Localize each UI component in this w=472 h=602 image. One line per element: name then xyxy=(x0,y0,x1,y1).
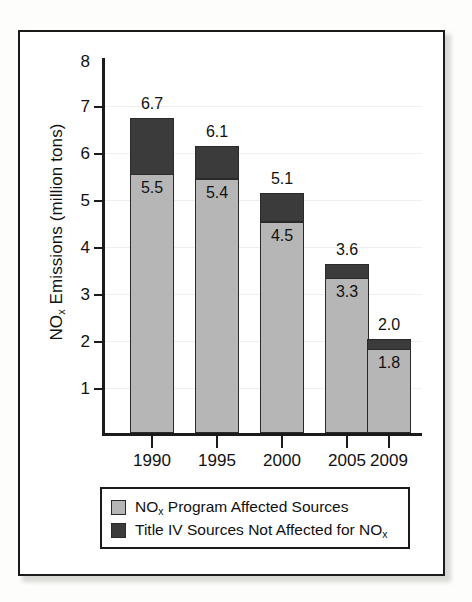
legend-label-title-iv-prefix: Title IV Sources Not Affected for NO xyxy=(135,521,382,538)
bar-segment-program-1990[interactable] xyxy=(130,174,174,433)
y-tick-label-8: 8 xyxy=(64,53,90,70)
y-tick-mark-7 xyxy=(94,106,103,108)
y-tick-mark-1 xyxy=(94,388,103,390)
bar-segment-program-1995[interactable] xyxy=(195,179,239,433)
bar-segment-title-iv-2005[interactable] xyxy=(325,264,369,279)
legend-swatch-dark-icon xyxy=(111,523,126,538)
y-tick-label-3: 3 xyxy=(64,286,90,303)
bar-value-label-1995: 5.4 xyxy=(195,185,239,201)
legend-label-program-suffix: Program Affected Sources xyxy=(164,498,349,515)
y-tick-mark-6 xyxy=(94,153,103,155)
legend-label-program-prefix: NO xyxy=(135,498,158,515)
bar-value-label-2005: 3.3 xyxy=(325,284,369,300)
bar-value-label-2009: 1.8 xyxy=(367,355,411,371)
plot-area: NOx Emissions (million tons) 8 7 6 xyxy=(20,32,447,578)
y-tick-label-6: 6 xyxy=(64,145,90,162)
bar-total-label-1990: 6.7 xyxy=(122,96,182,112)
x-tick-mark-2005 xyxy=(346,436,348,448)
y-tick-mark-2 xyxy=(94,341,103,343)
y-tick-mark-5 xyxy=(94,200,103,202)
x-axis-line xyxy=(102,433,422,436)
x-tick-label-1990: 1990 xyxy=(121,451,183,471)
legend-item-title-iv[interactable]: Title IV Sources Not Affected for NOx xyxy=(111,519,399,542)
bar-segment-title-iv-1990[interactable] xyxy=(130,118,174,175)
y-tick-mark-3 xyxy=(94,294,103,296)
y-tick-label-5: 5 xyxy=(64,192,90,209)
bar-value-label-1990: 5.5 xyxy=(130,180,174,196)
y-axis-title-subscript: x xyxy=(55,309,67,315)
bar-segment-program-2005[interactable] xyxy=(325,278,369,433)
legend-swatch-light-icon xyxy=(111,500,126,515)
x-tick-mark-2000 xyxy=(281,436,283,448)
bar-total-label-2009: 2.0 xyxy=(359,317,419,333)
x-tick-label-2009: 2009 xyxy=(358,451,420,471)
legend-label-program: NOx Program Affected Sources xyxy=(135,498,348,517)
figure-frame: NOx Emissions (million tons) 8 7 6 xyxy=(18,30,445,576)
bar-total-label-2005: 3.6 xyxy=(317,242,377,258)
chart-legend: NOx Program Affected Sources Title IV So… xyxy=(100,487,410,549)
legend-item-program[interactable]: NOx Program Affected Sources xyxy=(111,496,399,519)
bar-segment-program-2000[interactable] xyxy=(260,222,304,433)
y-tick-label-1: 1 xyxy=(64,380,90,397)
bar-total-label-1995: 6.1 xyxy=(187,124,247,140)
bar-segment-title-iv-2000[interactable] xyxy=(260,193,304,222)
x-tick-mark-1990 xyxy=(151,436,153,448)
y-tick-label-7: 7 xyxy=(64,98,90,115)
x-tick-mark-1995 xyxy=(216,436,218,448)
x-tick-label-1995: 1995 xyxy=(186,451,248,471)
bar-segment-title-iv-1995[interactable] xyxy=(195,146,239,179)
page-background: NOx Emissions (million tons) 8 7 6 xyxy=(0,0,472,602)
x-tick-label-2000: 2000 xyxy=(251,451,313,471)
y-tick-label-2: 2 xyxy=(64,333,90,350)
y-tick-mark-4 xyxy=(94,247,103,249)
x-tick-mark-2009 xyxy=(388,436,390,448)
legend-label-title-iv-subscript: x xyxy=(382,528,387,540)
bar-value-label-2000: 4.5 xyxy=(260,228,304,244)
y-tick-label-4: 4 xyxy=(64,239,90,256)
legend-label-title-iv: Title IV Sources Not Affected for NOx xyxy=(135,521,388,540)
bar-total-label-2000: 5.1 xyxy=(252,171,312,187)
